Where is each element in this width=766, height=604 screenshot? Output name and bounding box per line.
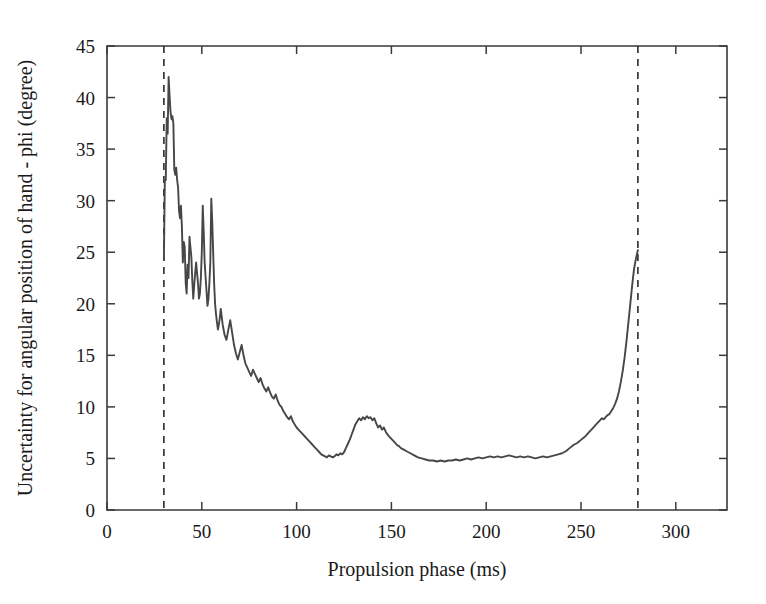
y-tick-label: 20 (76, 294, 95, 315)
figure-background (0, 0, 766, 604)
y-tick-label: 30 (76, 191, 95, 212)
y-tick-label: 45 (76, 36, 95, 57)
y-tick-label: 40 (76, 88, 95, 109)
x-tick-label: 50 (192, 521, 211, 542)
y-tick-label: 15 (76, 345, 95, 366)
x-axis-title: Propulsion phase (ms) (328, 558, 507, 581)
y-tick-label: 25 (76, 242, 95, 263)
x-tick-label: 150 (377, 521, 406, 542)
y-tick-label: 35 (76, 139, 95, 160)
y-tick-label: 10 (76, 397, 95, 418)
x-tick-label: 100 (282, 521, 311, 542)
y-axis-title: Uncertainty for angular position of hand… (14, 60, 37, 497)
line-chart: 050100150200250300 051015202530354045 Pr… (0, 0, 766, 604)
x-tick-label: 200 (472, 521, 501, 542)
x-tick-label: 0 (102, 521, 112, 542)
x-tick-label: 300 (662, 521, 691, 542)
y-tick-label: 5 (86, 448, 96, 469)
figure-container: 050100150200250300 051015202530354045 Pr… (0, 0, 766, 604)
y-tick-label: 0 (86, 500, 96, 521)
x-tick-label: 250 (567, 521, 596, 542)
